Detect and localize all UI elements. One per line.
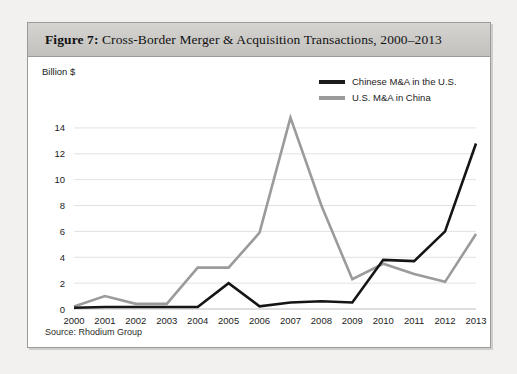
y-tick-label: 8 <box>60 200 65 211</box>
x-tick-label: 2000 <box>63 315 84 326</box>
figure-title-bar: Figure 7: Cross-Border Merger & Acquisit… <box>28 23 490 57</box>
y-tick-label: 0 <box>60 304 65 315</box>
y-tick-label: 6 <box>60 226 65 237</box>
figure-number: Figure 7: <box>45 32 99 47</box>
gridlines <box>74 128 476 309</box>
x-tick-label: 2009 <box>342 315 363 326</box>
x-tick-label: 2002 <box>125 315 146 326</box>
y-tick-label: 12 <box>54 148 65 159</box>
source-note: Source: Rhodium Group <box>45 327 142 337</box>
x-tick-label: 2010 <box>373 315 394 326</box>
y-tick-label: 2 <box>60 278 65 289</box>
x-tick-label: 2003 <box>156 315 177 326</box>
data-series <box>74 118 476 308</box>
line-chart-svg: 02468101214 2000200120022003200420052006… <box>28 57 492 349</box>
y-tick-label: 4 <box>60 252 65 263</box>
x-tick-label: 2005 <box>218 315 239 326</box>
x-tick-label: 2007 <box>280 315 301 326</box>
y-axis-ticks: 02468101214 <box>54 122 65 314</box>
figure-title-text: Cross-Border Merger & Acquisition Transa… <box>99 32 442 47</box>
x-tick-label: 2006 <box>249 315 270 326</box>
page-background: Figure 7: Cross-Border Merger & Acquisit… <box>0 0 517 374</box>
x-tick-label: 2004 <box>187 315 208 326</box>
figure-frame: Figure 7: Cross-Border Merger & Acquisit… <box>27 22 491 348</box>
plot-body: Billion $ Chinese M&A in the U.S. U.S. M… <box>28 57 490 347</box>
chart-plot-area: 02468101214 2000200120022003200420052006… <box>28 57 490 347</box>
x-tick-label: 2012 <box>435 315 456 326</box>
y-tick-label: 10 <box>54 174 65 185</box>
x-tick-label: 2011 <box>404 315 424 326</box>
x-tick-label: 2013 <box>465 315 486 326</box>
y-tick-label: 14 <box>54 122 65 133</box>
x-tick-label: 2001 <box>94 315 115 326</box>
x-axis-ticks: 2000200120022003200420052006200720082009… <box>63 315 486 326</box>
page-title: Figure 7: Cross-Border Merger & Acquisit… <box>28 32 442 48</box>
series-line-us-ma-china <box>74 118 476 307</box>
x-tick-label: 2008 <box>311 315 332 326</box>
